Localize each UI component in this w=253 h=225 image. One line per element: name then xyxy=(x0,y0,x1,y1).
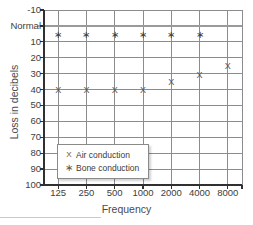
bone-conduction-point: ∗ xyxy=(82,30,90,40)
x-axis-title: Frequency xyxy=(0,203,253,215)
x-tick-label: 500 xyxy=(107,188,123,198)
x-tick-label: 8000 xyxy=(217,188,238,198)
bone-conduction-point: ∗ xyxy=(111,30,119,40)
air-conduction-point: X xyxy=(225,61,231,70)
y-tick-label: 40 xyxy=(30,85,41,95)
legend-label-air-conduction: Air conduction xyxy=(76,150,130,160)
x-tick-label: 125 xyxy=(50,188,66,198)
air-conduction-point: X xyxy=(112,85,118,94)
bone-conduction-marker-icon: ∗ xyxy=(62,162,76,173)
y-tick-label: 30 xyxy=(30,69,41,79)
y-tick-label: 80 xyxy=(30,148,41,158)
chart-legend: X Air conduction ∗ Bone conduction xyxy=(57,144,149,179)
air-conduction-point: X xyxy=(168,77,174,86)
x-tick-label: 2000 xyxy=(161,188,182,198)
x-tick-label: 250 xyxy=(78,188,94,198)
y-tick-label: 90 xyxy=(30,164,41,174)
y-tick-label: 10 xyxy=(30,37,41,47)
x-axis-tick-labels: 1252505001000200040008000 xyxy=(0,188,253,202)
air-conduction-point: X xyxy=(83,85,89,94)
bone-conduction-point: ∗ xyxy=(54,30,62,40)
y-tick-label: 50 xyxy=(30,100,41,110)
bottom-divider xyxy=(0,217,101,218)
legend-item-air-conduction: X Air conduction xyxy=(62,148,144,161)
bone-conduction-point: ∗ xyxy=(167,30,175,40)
y-axis-title: Loss in decibels xyxy=(8,47,20,157)
x-tick-label: 4000 xyxy=(189,188,210,198)
x-tick-label: 1000 xyxy=(132,188,153,198)
air-conduction-marker-icon: X xyxy=(62,150,76,159)
bone-conduction-point: ∗ xyxy=(196,30,204,40)
y-tick-label: 60 xyxy=(30,116,41,126)
air-conduction-point: X xyxy=(140,85,146,94)
y-tick-label: 70 xyxy=(30,132,41,142)
y-tick-label: Normal xyxy=(10,21,41,31)
legend-item-bone-conduction: ∗ Bone conduction xyxy=(62,161,144,174)
air-conduction-point: X xyxy=(55,85,61,94)
bone-conduction-point: ∗ xyxy=(139,30,147,40)
y-tick-label: -10 xyxy=(27,5,41,15)
air-conduction-point: X xyxy=(197,71,203,80)
audiogram-chart: -10Normal102030405060708090100 XXXXXXX∗∗… xyxy=(0,0,253,225)
legend-label-bone-conduction: Bone conduction xyxy=(76,163,139,173)
y-tick-label: 20 xyxy=(30,53,41,63)
